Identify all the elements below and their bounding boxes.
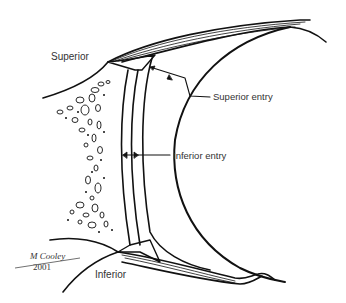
label-inferior: Inferior (95, 270, 126, 280)
label-superior-entry: Superior entry (213, 92, 273, 102)
superior-entry-leader (150, 67, 210, 97)
label-inferior-entry: Inferior entry (173, 151, 226, 161)
inferior-tissue-boundary (50, 239, 118, 253)
superior-entry-arrow-2 (167, 75, 172, 80)
acetabular-cartilage-inner (132, 70, 141, 245)
signature-year: 2001 (33, 263, 51, 272)
bone-dots (65, 94, 113, 233)
joint-space-line (143, 58, 210, 270)
superior-entry-arrow-1 (150, 66, 155, 70)
superior-tissue-boundary (43, 62, 108, 98)
signature-name: M Cooley (30, 252, 65, 261)
label-superior: Superior (51, 52, 89, 62)
bone-trabeculae (57, 81, 110, 229)
